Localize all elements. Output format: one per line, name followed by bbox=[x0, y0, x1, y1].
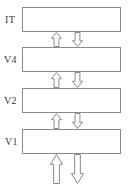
level-label-it: IT bbox=[5, 15, 15, 25]
level-box-v4 bbox=[22, 47, 121, 72]
arrow-v1-to-output bbox=[71, 154, 84, 184]
arrow-v4-to-v2 bbox=[72, 72, 83, 88]
level-box-v2 bbox=[22, 88, 121, 113]
level-box-v1 bbox=[22, 129, 121, 154]
arrow-input-to-v1 bbox=[50, 154, 63, 184]
arrow-v1-to-v2 bbox=[51, 113, 62, 129]
level-label-v1: V1 bbox=[5, 137, 18, 147]
arrow-v4-to-it bbox=[51, 32, 62, 47]
level-box-it bbox=[22, 7, 121, 32]
arrow-v2-to-v1 bbox=[72, 113, 83, 129]
visual-hierarchy-diagram: ITV4V2V1 bbox=[0, 0, 131, 189]
level-label-v2: V2 bbox=[4, 96, 17, 106]
arrow-v2-to-v4 bbox=[51, 72, 62, 88]
arrow-it-to-v4 bbox=[72, 32, 83, 47]
level-label-v4: V4 bbox=[4, 55, 17, 65]
